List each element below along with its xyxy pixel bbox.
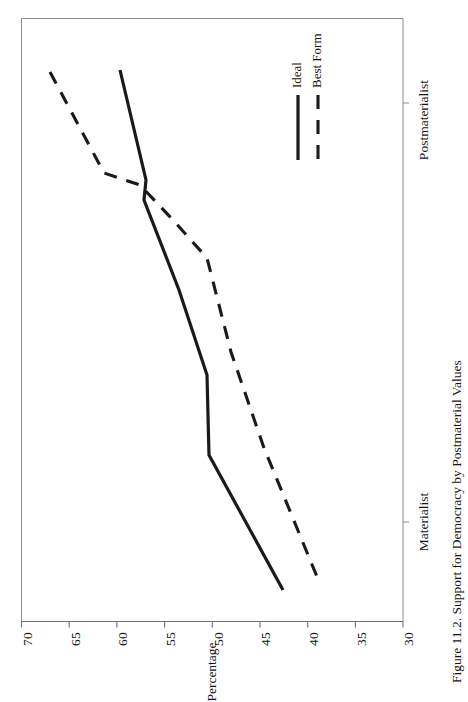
figure-caption: Figure 11.2. Support for Democracy by Po… <box>450 360 464 683</box>
legend <box>298 95 318 160</box>
series-line-best-form <box>50 72 320 584</box>
value-tick-label-40: 40 <box>307 632 321 646</box>
plot-frame <box>22 19 404 622</box>
value-axis-ticks <box>22 622 404 628</box>
value-tick-label-70: 70 <box>21 632 35 646</box>
value-tick-label-60: 60 <box>116 632 130 646</box>
value-axis-title: Percentage <box>205 642 219 701</box>
value-tick-label-35: 35 <box>355 632 369 646</box>
legend-label-best-form: Best Form <box>310 33 323 88</box>
category-axis-ticks <box>403 103 409 522</box>
value-tick-label-45: 45 <box>260 632 274 646</box>
legend-label-ideal: Ideal <box>290 62 303 88</box>
category-label-materialist: Materialist <box>417 493 431 551</box>
category-label-postmaterialist: Postmaterialist <box>417 80 431 160</box>
value-tick-label-55: 55 <box>164 632 178 646</box>
value-tick-label-65: 65 <box>69 632 83 646</box>
value-tick-label-30: 30 <box>403 632 417 646</box>
series-line-ideal <box>120 70 283 590</box>
